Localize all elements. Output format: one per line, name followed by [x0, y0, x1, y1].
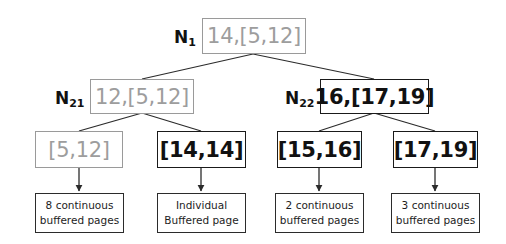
node-n21-box[interactable]: 12,[5,12]: [90, 79, 194, 114]
leaf-box-2[interactable]: [14,14]: [157, 131, 246, 168]
node-label-n21-subscript: 21: [69, 97, 84, 110]
node-label-n22: N22: [285, 88, 314, 108]
leaf-box-1[interactable]: [5,12]: [35, 131, 123, 168]
node-label-n22-subscript: 22: [299, 97, 314, 110]
annotation-1-line2: buffered pages: [40, 213, 119, 228]
annotation-1-line1: 8 continuous: [46, 198, 114, 213]
leaf-value-2: [14,14]: [160, 138, 244, 162]
node-label-n1: N1: [174, 27, 196, 47]
leaf-value-3: [15,16]: [278, 138, 362, 162]
edge-n21-to-leaf2: [142, 113, 201, 131]
node-label-n21-prefix: N: [55, 88, 69, 108]
annotation-box-3: 2 continuous buffered pages: [275, 193, 364, 233]
node-label-n1-subscript: 1: [188, 36, 195, 49]
node-n1-value: 14,[5,12]: [207, 24, 301, 48]
edge-root-to-n22: [253, 54, 374, 79]
edge-n22-to-leaf4: [374, 113, 435, 131]
node-n22-value: 16,[17,19]: [315, 85, 435, 109]
tree-diagram: N1 14,[5,12] N21 12,[5,12] N22 16,[17,19…: [0, 0, 506, 244]
edge-root-to-n21: [142, 54, 253, 79]
leaf-box-3[interactable]: [15,16]: [277, 131, 362, 168]
leaf-box-4[interactable]: [17,19]: [393, 131, 478, 168]
edge-n22-to-leaf3: [319, 113, 374, 131]
leaf-value-1: [5,12]: [48, 138, 109, 162]
node-n21-value: 12,[5,12]: [95, 85, 189, 109]
annotation-3-line1: 2 continuous: [286, 198, 354, 213]
annotation-box-2: Individual Buffered page: [157, 193, 246, 233]
annotation-box-1: 8 continuous buffered pages: [35, 193, 124, 233]
edge-n21-to-leaf1: [79, 113, 142, 131]
node-n1-box[interactable]: 14,[5,12]: [202, 18, 306, 54]
annotation-4-line2: buffered pages: [396, 213, 475, 228]
node-label-n22-prefix: N: [285, 88, 299, 108]
annotation-2-line1: Individual: [176, 198, 227, 213]
node-label-n1-prefix: N: [174, 27, 188, 47]
leaf-value-4: [17,19]: [394, 138, 478, 162]
annotation-2-line2: Buffered page: [164, 213, 238, 228]
annotation-4-line1: 3 continuous: [402, 198, 470, 213]
annotation-box-4: 3 continuous buffered pages: [391, 193, 480, 233]
annotation-3-line2: buffered pages: [280, 213, 359, 228]
node-label-n21: N21: [55, 88, 84, 108]
node-n22-box[interactable]: 16,[17,19]: [320, 79, 429, 114]
